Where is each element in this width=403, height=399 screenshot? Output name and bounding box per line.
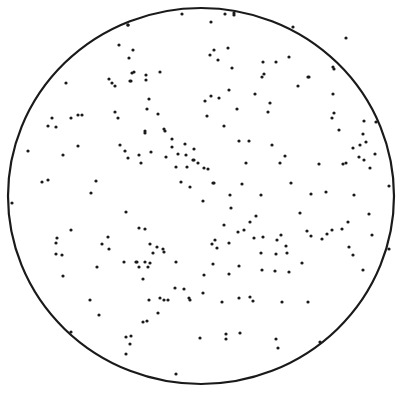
dot (228, 193, 231, 196)
dot (202, 273, 205, 276)
dot (141, 277, 144, 280)
dot (344, 161, 347, 164)
dot (276, 346, 279, 349)
dot (261, 235, 264, 238)
dot (259, 251, 262, 254)
dot (129, 334, 132, 337)
dot (283, 154, 286, 157)
dot (202, 166, 205, 169)
dot (209, 94, 212, 97)
dot (10, 201, 13, 204)
dot (76, 144, 79, 147)
dot (278, 161, 281, 164)
dot (227, 88, 230, 91)
dot (237, 139, 240, 142)
dot (205, 114, 208, 117)
dot (358, 143, 361, 146)
dot (330, 116, 333, 119)
dot (215, 246, 218, 249)
dot (166, 298, 169, 301)
dot (223, 12, 226, 15)
dot (144, 78, 147, 81)
dot (351, 253, 354, 256)
dot (236, 230, 239, 233)
dot (275, 238, 278, 241)
dot (216, 58, 219, 61)
dot (340, 227, 343, 230)
dot (206, 167, 209, 170)
dot (61, 153, 64, 156)
dot (185, 165, 188, 168)
dot (242, 228, 245, 231)
dot (50, 116, 53, 119)
dot (123, 149, 126, 152)
dot (184, 153, 187, 156)
dot (127, 56, 130, 59)
dot (254, 214, 257, 217)
dot (268, 101, 271, 104)
dot (113, 110, 116, 113)
dot (244, 161, 247, 164)
dot (201, 291, 204, 294)
dot (69, 228, 72, 231)
dot (307, 75, 310, 78)
dot (196, 161, 199, 164)
dot (362, 119, 365, 122)
dot (368, 166, 371, 169)
dot (126, 23, 129, 26)
dot (192, 147, 195, 150)
dot (203, 99, 206, 102)
dot (107, 77, 110, 80)
dot (69, 116, 72, 119)
dot (298, 211, 301, 214)
dot (285, 251, 288, 254)
dot (208, 53, 211, 56)
dot (252, 236, 255, 239)
dot (188, 298, 191, 301)
dot (139, 161, 142, 164)
dot (179, 180, 182, 183)
dot (64, 81, 67, 84)
dot (237, 296, 240, 299)
dot (261, 60, 264, 63)
dot (100, 242, 103, 245)
dot (220, 300, 223, 303)
dot (146, 265, 149, 268)
dot (309, 192, 312, 195)
dot (148, 242, 151, 245)
dot (337, 128, 340, 131)
dot (318, 340, 321, 343)
dot (170, 145, 173, 148)
dot (141, 320, 144, 323)
dot (54, 241, 57, 244)
dot (161, 247, 164, 250)
dot (54, 125, 57, 128)
dot (306, 300, 309, 303)
dot (151, 251, 154, 254)
dot (387, 184, 390, 187)
dot (156, 311, 159, 314)
dot (224, 332, 227, 335)
dot (238, 331, 241, 334)
dot (143, 129, 146, 132)
dot (147, 298, 150, 301)
dot (347, 245, 350, 248)
dot (266, 110, 269, 113)
dot (232, 13, 235, 16)
dot (131, 48, 134, 51)
dot (262, 72, 265, 75)
dot (373, 152, 376, 155)
dot (270, 143, 273, 146)
dot (287, 270, 290, 273)
dot (370, 233, 373, 236)
dot (128, 79, 131, 82)
dot (143, 260, 146, 263)
dot (76, 113, 79, 116)
dot (346, 220, 349, 223)
dot (107, 247, 110, 250)
dot (387, 247, 390, 250)
dot (284, 244, 287, 247)
dot (147, 97, 150, 100)
dot (144, 73, 147, 76)
dot (374, 120, 377, 123)
